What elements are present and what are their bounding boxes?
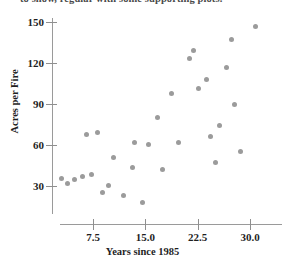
scatter-point: [160, 167, 165, 172]
x-axis-tick-label: 7.5: [71, 232, 115, 243]
scatter-point: [111, 155, 116, 160]
scatter-point: [155, 115, 160, 120]
x-axis-tick: [145, 219, 146, 230]
scatter-point: [217, 123, 222, 128]
x-axis-tick-label: 30.0: [228, 232, 272, 243]
x-axis-tick-label: 22.5: [176, 232, 220, 243]
x-axis-title: Years since 1985: [0, 246, 285, 257]
scatter-point: [84, 132, 89, 137]
scatter-point: [232, 102, 237, 107]
y-axis-tick-label: 60: [4, 140, 44, 151]
scatter-point: [130, 165, 135, 170]
scatter-point: [213, 160, 218, 165]
scatter-point: [176, 140, 181, 145]
x-axis-tick: [250, 219, 251, 230]
y-axis-tick-label: 150: [4, 17, 44, 28]
scatter-point: [169, 91, 174, 96]
y-axis-line: [52, 18, 53, 214]
scatter-point: [191, 48, 196, 53]
y-axis-tick-label: 120: [4, 58, 44, 69]
scatter-point: [229, 37, 234, 42]
scatter-point: [140, 200, 145, 205]
scatter-point: [95, 130, 100, 135]
scatter-point: [146, 142, 151, 147]
scatter-point: [106, 183, 111, 188]
x-axis-tick-label: 15.0: [123, 232, 167, 243]
scatter-point: [132, 140, 137, 145]
scatter-point: [121, 193, 126, 198]
scatter-point: [89, 172, 94, 177]
scatter-point: [100, 190, 105, 195]
x-axis-tick: [198, 219, 199, 230]
x-axis-tick: [93, 219, 94, 230]
scatter-point: [224, 65, 229, 70]
scatter-point: [253, 24, 258, 29]
y-axis-tick: [46, 22, 57, 23]
y-axis-tick: [46, 186, 57, 187]
scatter-point: [59, 176, 64, 181]
scatter-point: [65, 181, 70, 186]
scatter-point: [72, 177, 77, 182]
y-axis-tick: [46, 63, 57, 64]
plot-area: Acres per Fire Years since 1985 30609012…: [0, 0, 285, 261]
scatter-point: [196, 86, 201, 91]
scatter-point: [187, 56, 192, 61]
y-axis-tick-label: 90: [4, 99, 44, 110]
y-axis-tick: [46, 104, 57, 105]
y-axis-tick-label: 30: [4, 181, 44, 192]
scatter-point: [80, 174, 85, 179]
y-axis-tick: [46, 145, 57, 146]
scatter-point: [204, 77, 209, 82]
scatter-point: [238, 149, 243, 154]
scatter-plot-figure: to show, regular with some supporting pl…: [0, 0, 285, 261]
scatter-point: [208, 134, 213, 139]
